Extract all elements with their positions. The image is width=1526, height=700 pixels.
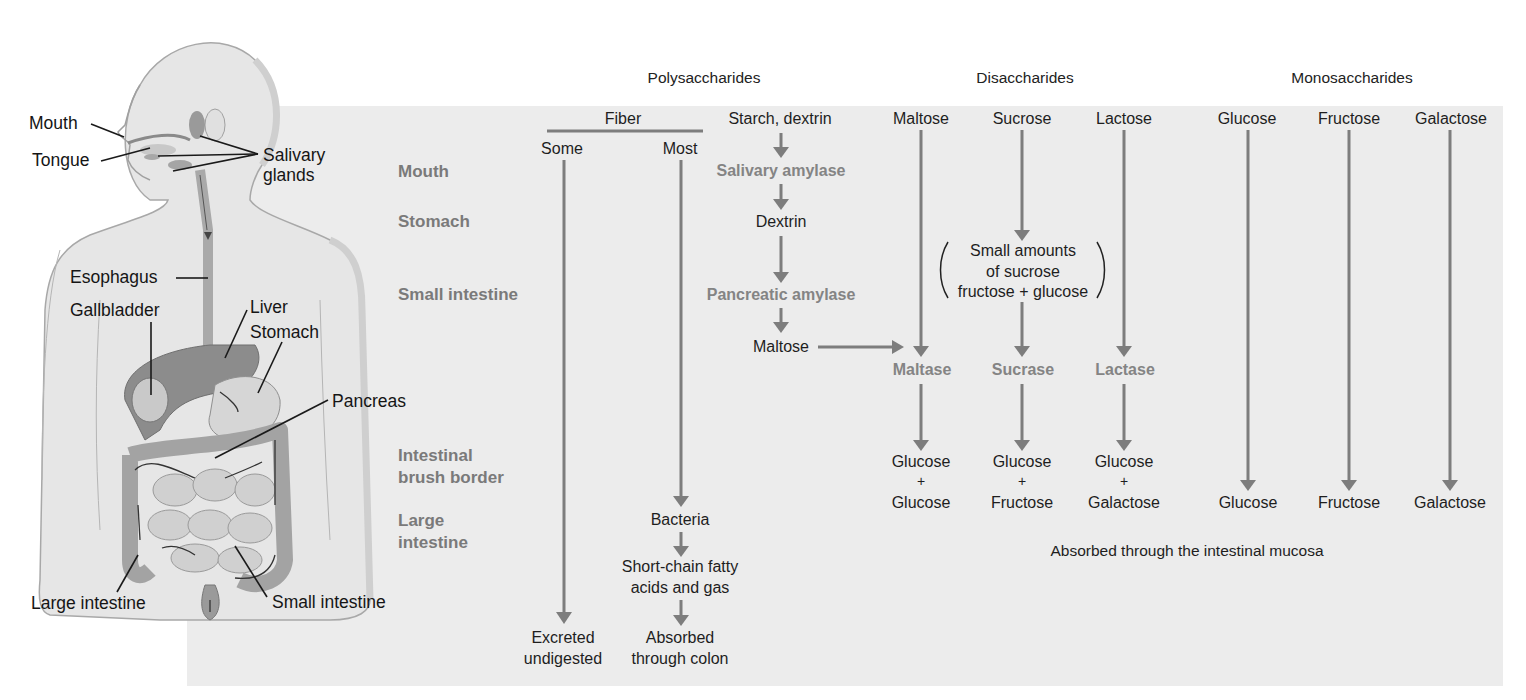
fiber-absorbed-1: Absorbed <box>646 628 715 647</box>
sucrose-note-1: Small amounts <box>970 241 1076 260</box>
monosaccharide-fructose: Fructose <box>1318 109 1380 128</box>
sucrose-note-2: of sucrose <box>986 262 1060 281</box>
header-polysaccharides: Polysaccharides <box>648 68 761 87</box>
product-lactose-1: Glucose <box>1095 452 1154 471</box>
fiber-some: Some <box>541 139 583 158</box>
product-maltose-2: Glucose <box>892 493 951 512</box>
header-disaccharides: Disaccharides <box>976 68 1073 87</box>
row-label-brush-border-2: brush border <box>398 467 504 488</box>
fiber-absorbed-2: through colon <box>632 649 729 668</box>
row-label-brush-border-1: Intestinal <box>398 445 473 466</box>
monosaccharide-glucose: Glucose <box>1218 109 1277 128</box>
product-sucrose-1: Glucose <box>993 452 1052 471</box>
row-label-stomach: Stomach <box>398 211 470 232</box>
row-label-large-intestine-2: intestine <box>398 532 468 553</box>
starch-maltose: Maltose <box>753 337 809 356</box>
row-label-small-intestine: Small intestine <box>398 284 518 305</box>
product-maltose-1: Glucose <box>892 452 951 471</box>
product-maltose-plus: + <box>917 472 925 491</box>
output-fructose: Fructose <box>1318 493 1380 512</box>
note-left-paren <box>941 242 949 298</box>
product-lactose-2: Galactose <box>1088 493 1160 512</box>
sucrose-note-3: fructose + glucose <box>958 282 1088 301</box>
header-monosaccharides: Monosaccharides <box>1291 68 1412 87</box>
row-label-mouth: Mouth <box>398 161 449 182</box>
enzyme-salivary-amylase: Salivary amylase <box>717 161 846 180</box>
enzyme-maltase: Maltase <box>893 360 952 379</box>
fiber-excreted-2: undigested <box>524 649 602 668</box>
fiber-scfa-2: acids and gas <box>631 578 730 597</box>
output-glucose: Glucose <box>1219 493 1278 512</box>
fiber-bacteria: Bacteria <box>651 510 710 529</box>
starch-dextrin: Dextrin <box>756 212 807 231</box>
product-lactose-plus: + <box>1120 472 1128 491</box>
monosaccharide-galactose: Galactose <box>1415 109 1487 128</box>
fiber-most: Most <box>663 139 698 158</box>
product-sucrose-plus: + <box>1018 472 1026 491</box>
disaccharide-lactose: Lactose <box>1096 109 1152 128</box>
fiber-title: Fiber <box>605 109 641 128</box>
enzyme-lactase: Lactase <box>1095 360 1155 379</box>
enzyme-pancreatic-amylase: Pancreatic amylase <box>707 285 856 304</box>
fiber-excreted-1: Excreted <box>531 628 594 647</box>
disaccharide-maltose: Maltose <box>893 109 949 128</box>
starch-title: Starch, dextrin <box>728 109 831 128</box>
disaccharide-sucrose: Sucrose <box>993 109 1052 128</box>
output-galactose: Galactose <box>1414 493 1486 512</box>
absorption-note: Absorbed through the intestinal mucosa <box>1050 541 1323 560</box>
product-sucrose-2: Fructose <box>991 493 1053 512</box>
row-label-large-intestine-1: Large <box>398 510 444 531</box>
fiber-scfa-1: Short-chain fatty <box>622 557 739 576</box>
enzyme-sucrase: Sucrase <box>992 360 1054 379</box>
note-right-paren <box>1097 242 1105 298</box>
